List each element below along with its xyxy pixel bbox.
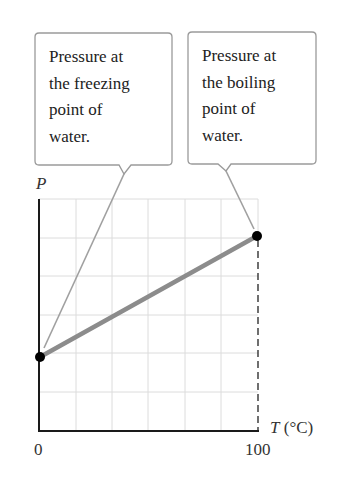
- x-axis-variable: T: [270, 418, 279, 437]
- callout-line: point of: [49, 97, 130, 124]
- callout-line: the freezing: [49, 71, 130, 98]
- callout-line: Pressure at: [202, 43, 276, 70]
- callout-line: water.: [49, 124, 130, 151]
- callout-line: Pressure at: [49, 44, 130, 71]
- x-tick-0: 0: [34, 440, 43, 460]
- x-axis-label: T (°C): [270, 418, 313, 438]
- pointer-line-boiling: [226, 171, 254, 229]
- x-tick-100: 100: [245, 440, 271, 460]
- callout-line: point of: [202, 96, 276, 123]
- y-axis-label: P: [36, 174, 46, 194]
- freezing-point-marker: [35, 352, 45, 362]
- callout-line: water.: [202, 123, 276, 150]
- callout-text-boiling: Pressure at the boiling point of water.: [202, 43, 276, 149]
- boiling-point-marker: [252, 231, 262, 241]
- callout-line: the boiling: [202, 70, 276, 97]
- callout-text-freezing: Pressure at the freezing point of water.: [49, 44, 130, 150]
- x-axis-unit: (°C): [284, 418, 313, 437]
- grid: [39, 199, 258, 431]
